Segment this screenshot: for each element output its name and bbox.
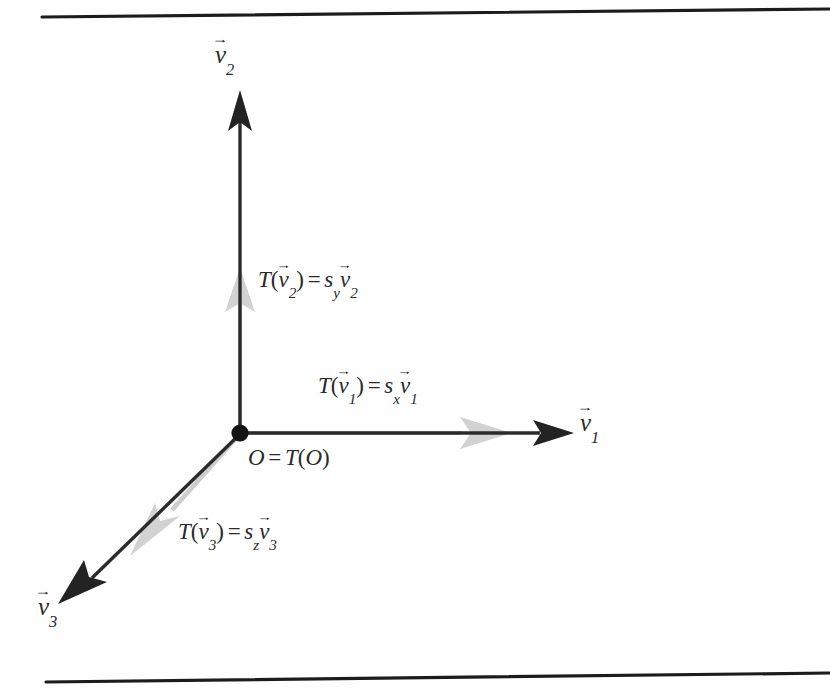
vector-symbol-v2: v [215, 42, 226, 67]
axis-vector-v2 [228, 90, 252, 431]
vector-symbol-rhs: v [400, 374, 410, 397]
close-paren: ) [216, 519, 224, 544]
vector-symbol-arg: v [338, 374, 348, 397]
axis-vector-v1 [242, 420, 574, 446]
vector-base-letter: v [259, 519, 269, 544]
vector-subscript: 2 [289, 284, 297, 301]
origin-label: O=T(O) [248, 446, 330, 469]
origin-dot [231, 424, 248, 441]
vector-subscript: 1 [410, 390, 418, 407]
vector-subscript: 2 [350, 284, 358, 301]
vector-symbol-arg: v [278, 268, 288, 291]
vector-base-letter: v [340, 267, 350, 292]
equals-sign: = [364, 373, 384, 398]
scaled-image-arrows [130, 268, 512, 556]
close-paren: ) [322, 445, 330, 470]
vector-diagram [0, 0, 830, 700]
vector-subscript: 2 [226, 60, 234, 79]
scalar-symbol: s [324, 267, 333, 292]
transform-symbol: T [178, 519, 191, 544]
scalar-subscript: y [333, 284, 340, 301]
bottom-rule [46, 673, 830, 682]
figure-page: v2 v1 v3 T( [0, 0, 830, 700]
close-paren: ) [356, 373, 364, 398]
vector-base-letter: v [580, 409, 591, 436]
equation-label-z-axis: T( v3)=sz v3 [178, 520, 277, 543]
vector-subscript: 3 [269, 536, 277, 553]
vector-base-letter: v [278, 267, 288, 292]
open-paren: ( [191, 519, 199, 544]
scalar-subscript: x [393, 390, 400, 407]
scalar-symbol: s [244, 519, 253, 544]
equals-sign: = [304, 267, 324, 292]
axis-label-v3: v3 [38, 594, 57, 619]
transform-symbol: T [258, 267, 271, 292]
equation-label-y-axis: T( v2)=sy v2 [258, 268, 358, 291]
origin-symbol: O [248, 445, 265, 470]
page-rules [42, 9, 830, 682]
top-rule [42, 9, 830, 17]
vector-symbol-rhs: v [259, 520, 269, 543]
transform-symbol: T [285, 445, 298, 470]
vector-subscript: 1 [349, 390, 357, 407]
scalar-symbol: s [384, 373, 393, 398]
vector-base-letter: v [38, 593, 49, 620]
vector-symbol-v1: v [580, 410, 591, 435]
basis-vector-axes [58, 90, 574, 604]
origin-arg: O [305, 445, 322, 470]
transform-symbol: T [318, 373, 331, 398]
equals-sign: = [265, 445, 285, 470]
vector-subscript: 3 [49, 612, 57, 631]
open-paren: ( [331, 373, 339, 398]
vector-base-letter: v [400, 373, 410, 398]
vector-subscript: 3 [209, 536, 217, 553]
vector-symbol-rhs: v [340, 268, 350, 291]
vector-base-letter: v [198, 519, 208, 544]
axis-label-v2: v2 [215, 42, 234, 67]
vector-base-letter: v [338, 373, 348, 398]
vector-subscript: 1 [591, 428, 599, 447]
axis-label-v1: v1 [580, 410, 599, 435]
close-paren: ) [296, 267, 304, 292]
vector-base-letter: v [215, 41, 226, 68]
vector-symbol-v3: v [38, 594, 49, 619]
vector-symbol-arg: v [198, 520, 208, 543]
open-paren: ( [271, 267, 279, 292]
equals-sign: = [224, 519, 244, 544]
equation-label-x-axis: T( v1)=sx v1 [318, 374, 418, 397]
